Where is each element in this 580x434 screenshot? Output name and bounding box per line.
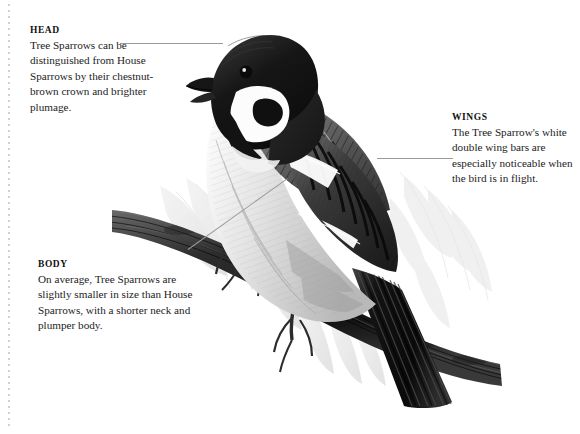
callout-head-text: Tree Sparrows can be distinguished from … <box>30 38 160 115</box>
leader-line-wings <box>377 158 453 159</box>
lower-wing-bar <box>296 212 358 258</box>
callout-body: BODY On average, Tree Sparrows are sligh… <box>38 259 200 334</box>
callout-head: HEAD Tree Sparrows can be distinguished … <box>30 25 160 115</box>
callout-wings-text: The Tree Sparrow's white double wing bar… <box>452 125 578 187</box>
callout-wings-title: WINGS <box>452 112 578 123</box>
eye-highlight <box>242 68 246 72</box>
callout-body-text: On average, Tree Sparrows are slightly s… <box>38 272 200 334</box>
background-foliage <box>160 172 492 386</box>
legs-gripping-branch <box>216 230 312 372</box>
cheek <box>231 86 290 142</box>
throat-bib <box>226 110 262 160</box>
tail <box>352 268 452 408</box>
cheek-spot <box>253 98 283 126</box>
upper-wing-bar <box>274 148 338 188</box>
head-crown <box>211 35 318 150</box>
eye <box>240 66 253 79</box>
left-dotted-edge-rule <box>8 4 10 430</box>
beak-upper <box>186 77 214 92</box>
callout-head-title: HEAD <box>30 25 160 36</box>
callout-body-title: BODY <box>38 259 200 270</box>
field-guide-page: HEAD Tree Sparrows can be distinguished … <box>0 0 580 434</box>
head <box>186 35 325 172</box>
beak-lower <box>190 92 216 103</box>
callout-wings: WINGS The Tree Sparrow's white double wi… <box>452 112 578 187</box>
breast <box>190 90 410 340</box>
mantle-back <box>230 80 410 230</box>
folded-wing <box>270 100 420 290</box>
leader-line-body <box>188 178 288 250</box>
